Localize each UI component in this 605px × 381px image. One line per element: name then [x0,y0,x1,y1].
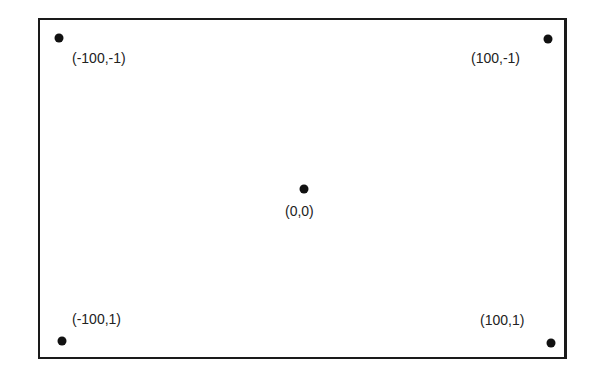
coordinate-label: (100,1) [480,312,524,328]
dot-marker [300,185,309,194]
coordinate-label: (100,-1) [471,50,520,66]
dot-marker [55,34,64,43]
coordinate-label: (-100,1) [72,311,121,327]
coordinate-label: (0,0) [285,203,314,219]
dot-marker [544,35,553,44]
dot-marker [547,339,556,348]
coordinate-label: (-100,-1) [72,50,126,66]
dot-marker [58,337,67,346]
